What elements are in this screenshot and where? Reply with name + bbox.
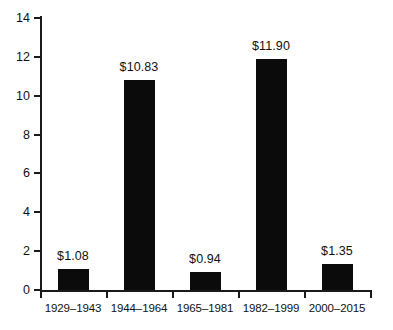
bar bbox=[190, 272, 221, 290]
y-axis-tick-label: 10 bbox=[6, 90, 30, 103]
x-axis-tick bbox=[106, 291, 108, 298]
y-axis-tick-label: 8 bbox=[6, 129, 30, 142]
bar-value-label: $0.94 bbox=[165, 253, 245, 266]
bar-chart: 02468101214 $1.08$10.83$0.94$11.90$1.35 … bbox=[0, 0, 393, 330]
y-axis-tick-label: 0 bbox=[6, 284, 30, 297]
x-axis-tick bbox=[172, 291, 174, 298]
y-axis-tick bbox=[34, 17, 41, 19]
x-axis-tick bbox=[370, 291, 372, 298]
x-axis-tick bbox=[40, 291, 42, 298]
y-axis-tick bbox=[34, 56, 41, 58]
y-axis-tick bbox=[34, 211, 41, 213]
y-axis-tick-label: 2 bbox=[6, 245, 30, 258]
bar bbox=[124, 80, 155, 290]
y-axis-tick bbox=[34, 172, 41, 174]
x-axis-category-label: 1982–1999 bbox=[238, 303, 304, 315]
y-axis-tick-label: 12 bbox=[6, 51, 30, 64]
x-axis-category-label: 1965–1981 bbox=[172, 303, 238, 315]
x-axis-category-label: 2000–2015 bbox=[304, 303, 370, 315]
x-axis-tick bbox=[238, 291, 240, 298]
y-axis-tick-label: 4 bbox=[6, 206, 30, 219]
bar bbox=[256, 59, 287, 290]
bar-value-label: $1.35 bbox=[297, 245, 377, 258]
bar bbox=[58, 269, 89, 290]
x-axis-tick bbox=[304, 291, 306, 298]
bar-value-label: $10.83 bbox=[99, 61, 179, 74]
x-axis-category-label: 1944–1964 bbox=[106, 303, 172, 315]
y-axis-tick bbox=[34, 95, 41, 97]
bar-value-label: $11.90 bbox=[231, 40, 311, 53]
y-axis-tick bbox=[34, 134, 41, 136]
bar bbox=[322, 264, 353, 290]
y-axis-tick-label: 6 bbox=[6, 167, 30, 180]
y-axis-tick-label: 14 bbox=[6, 12, 30, 25]
x-axis-category-label: 1929–1943 bbox=[40, 303, 106, 315]
x-axis-line bbox=[40, 290, 372, 292]
bar-value-label: $1.08 bbox=[33, 250, 113, 263]
